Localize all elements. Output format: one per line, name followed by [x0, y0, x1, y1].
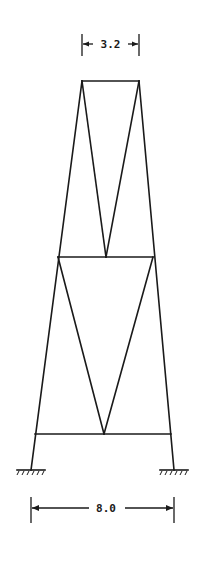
- lower-brace-left: [58, 257, 104, 434]
- fixed-support-right: [160, 470, 188, 475]
- upper-brace-right: [106, 81, 139, 257]
- top-width-label: 3.2: [101, 38, 121, 51]
- upper-brace-left: [82, 81, 106, 257]
- base-width-dimension: 8.0: [31, 497, 174, 523]
- fixed-support-left: [17, 470, 45, 475]
- truss-diagram: 3.2 8.0: [0, 0, 209, 564]
- base-width-label: 8.0: [96, 502, 116, 515]
- right-column: [139, 81, 174, 470]
- left-column: [31, 81, 82, 470]
- arrow-left-icon: [83, 42, 89, 47]
- arrow-right-icon: [166, 505, 173, 511]
- top-width-dimension: 3.2: [82, 34, 139, 56]
- frame: [31, 81, 174, 470]
- lower-brace-right: [104, 257, 153, 434]
- arrow-left-icon: [32, 505, 39, 511]
- arrow-right-icon: [132, 42, 138, 47]
